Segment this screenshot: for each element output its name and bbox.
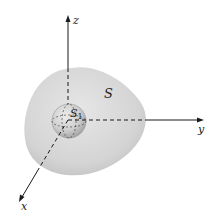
y-axis-arrow-icon	[197, 118, 204, 123]
surface-diagram: z y x S S1	[0, 0, 224, 218]
y-axis-label: y	[197, 123, 205, 136]
z-axis-arrow-icon	[66, 15, 71, 22]
x-axis	[22, 170, 38, 197]
z-axis-label: z	[72, 14, 79, 27]
inner-surface-subscript: 1	[78, 112, 83, 121]
outer-surface-label: S	[104, 86, 113, 101]
inner-sphere-s1	[52, 104, 86, 138]
x-axis-label: x	[21, 200, 28, 213]
